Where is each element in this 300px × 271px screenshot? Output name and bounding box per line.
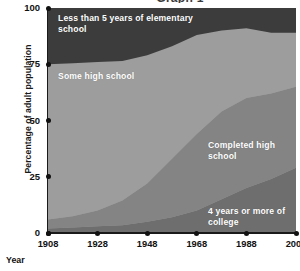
x-tick-label-2008: 2008 [274, 239, 300, 249]
y-tick-label-50: 50 [10, 115, 40, 126]
x-tick-label-1968: 1968 [175, 239, 219, 249]
chart-figure: Graph 1 Percentage of adult population 1… [0, 0, 300, 271]
band-label-college: 4 years or more of college [208, 206, 300, 227]
plot-area [48, 8, 296, 233]
chart-title: Graph 1 [120, 0, 240, 3]
y-tick-dot-100 [46, 6, 51, 11]
x-axis-line [47, 232, 297, 234]
x-tick-dot-1908 [46, 231, 51, 236]
y-tick-dot-75 [46, 62, 51, 67]
x-tick-dot-2008 [294, 231, 299, 236]
y-tick-dot-50 [46, 118, 51, 123]
x-tick-label-1908: 1908 [26, 239, 70, 249]
y-tick-label-100: 100 [10, 2, 40, 13]
x-tick-dot-1968 [194, 231, 199, 236]
x-tick-label-1948: 1948 [125, 239, 169, 249]
y-tick-dot-25 [46, 174, 51, 179]
band-label-elementary: Less than 5 years of elementary school [58, 13, 208, 34]
x-tick-dot-1928 [95, 231, 100, 236]
x-tick-dot-1948 [145, 231, 150, 236]
y-tick-label-75: 75 [10, 58, 40, 69]
x-tick-label-1988: 1988 [224, 239, 268, 249]
y-tick-label-25: 25 [10, 171, 40, 182]
x-tick-dot-1988 [244, 231, 249, 236]
stacked-area-svg [48, 8, 296, 233]
x-axis-title: Year [6, 255, 25, 265]
band-label-some-high-school: Some high school [58, 71, 188, 82]
x-tick-label-1928: 1928 [76, 239, 120, 249]
y-tick-label-0: 0 [10, 227, 40, 238]
band-label-completed-high-school: Completed high school [208, 140, 298, 161]
